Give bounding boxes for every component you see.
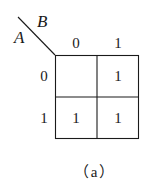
cell-a0-b1: 1 bbox=[108, 69, 128, 84]
figure-caption: （a） bbox=[65, 165, 125, 180]
col-header-0: 0 bbox=[66, 36, 86, 51]
cell-a1-b0: 1 bbox=[66, 111, 86, 126]
col-header-1: 1 bbox=[108, 36, 128, 51]
cell-a1-b1: 1 bbox=[108, 111, 128, 126]
row-header-0: 0 bbox=[34, 69, 54, 84]
col-variable-label: B bbox=[37, 13, 47, 30]
row-variable-label: A bbox=[14, 29, 24, 46]
row-header-1: 1 bbox=[34, 111, 54, 126]
